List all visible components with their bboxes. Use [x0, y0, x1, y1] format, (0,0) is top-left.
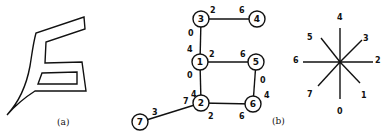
panel-a-glyph-shape: (a): [7, 17, 86, 127]
edge-direction-label: 7: [183, 97, 189, 106]
edge-direction-label: 4: [264, 91, 270, 100]
edge-direction-label: 2: [208, 112, 214, 121]
compass-label-0: 0: [337, 107, 343, 116]
graph-node-6: 6: [245, 96, 261, 112]
compass-ray-7: [318, 62, 340, 86]
edge-direction-label: 0: [187, 71, 193, 80]
node-label: 4: [254, 14, 260, 24]
compass-label-1: 1: [361, 91, 367, 100]
graph-node-5: 5: [248, 54, 264, 70]
compass-center-dot: [339, 61, 342, 64]
panel-b-chain-code-graph: 26042060447263 1234567 (b): [132, 6, 285, 130]
compass-label-4: 4: [337, 13, 343, 22]
node-label: 7: [137, 117, 143, 127]
caption-a: (a): [57, 117, 69, 127]
node-label: 5: [253, 57, 259, 67]
compass-ray-3: [340, 40, 362, 62]
compass-label-3: 3: [363, 34, 369, 43]
edge-direction-label: 6: [239, 6, 245, 15]
node-label: 2: [198, 98, 204, 108]
edge-direction-label: 0: [260, 76, 266, 85]
compass-label-7: 7: [307, 90, 313, 99]
graph-node-1: 1: [192, 54, 208, 70]
edge-direction-label: 2: [210, 6, 216, 15]
panel-c-direction-compass: 01234567: [293, 13, 381, 116]
graph-node-2: 2: [193, 95, 209, 111]
compass-label-2: 2: [375, 56, 381, 65]
graph-node-3: 3: [193, 11, 209, 27]
caption-b: (b): [272, 116, 285, 126]
compass-label-5: 5: [307, 33, 313, 42]
edge-direction-label: 2: [209, 50, 215, 59]
edge-direction-label: 6: [239, 112, 245, 121]
node-label: 1: [197, 57, 203, 67]
graph-node-7: 7: [132, 114, 148, 130]
compass-ray-1: [340, 62, 360, 83]
edge-direction-label: 4: [187, 45, 193, 54]
glyph-inner-hole: [38, 72, 77, 84]
graph-edge-2-7: [140, 103, 201, 122]
glyph-outer-contour: [7, 17, 86, 115]
graph-node-4: 4: [249, 11, 265, 27]
edge-direction-label: 6: [240, 50, 246, 59]
edge-direction-label: 0: [188, 29, 194, 38]
node-label: 6: [250, 99, 256, 109]
compass-ray-5: [321, 38, 340, 62]
node-label: 3: [198, 14, 204, 24]
compass-label-6: 6: [293, 56, 299, 65]
edge-direction-label: 3: [152, 108, 158, 117]
figure-canvas: (a) 26042060447263 1234567 (b) 01234567: [0, 0, 386, 136]
